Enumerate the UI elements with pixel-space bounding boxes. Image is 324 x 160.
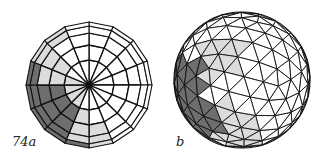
figure-geodesic-spheres: 74a b [0,0,324,160]
sphere-b-geodesic-sphere [0,0,324,160]
figure-label-b: b [176,134,184,149]
figure-label-a: 74a [12,134,36,149]
